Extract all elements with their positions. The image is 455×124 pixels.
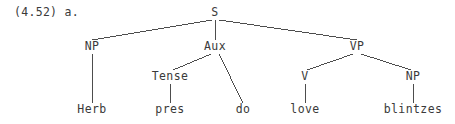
tree-edge-aux-to-tense: [173, 54, 211, 70]
tree-leaf-blintzes: blintzes: [384, 104, 443, 116]
tree-node-s: S: [211, 7, 218, 19]
tree-leaf-love: love: [290, 104, 319, 116]
tree-node-tense: Tense: [152, 71, 189, 83]
tree-edge-aux-to-do: [219, 54, 243, 103]
tree-leaf-herb: Herb: [77, 104, 106, 116]
tree-edge-s-to-vp: [219, 20, 357, 40]
tree-node-np1: NP: [85, 41, 100, 53]
tree-node-v: V: [301, 71, 308, 83]
tree-edge-vp-to-np2: [361, 54, 411, 70]
tree-leaf-pres: pres: [155, 104, 184, 116]
tree-leaf-do: do: [236, 104, 251, 116]
syntax-tree-figure: (4.52) a. SNPAuxVPTenseVNPHerbpresdolove…: [0, 0, 455, 124]
tree-edge-vp-to-v: [307, 54, 353, 70]
tree-node-aux: Aux: [204, 41, 226, 53]
tree-node-vp: VP: [350, 41, 365, 53]
tree-edge-s-to-np1: [92, 20, 212, 40]
tree-node-np2: NP: [406, 71, 421, 83]
